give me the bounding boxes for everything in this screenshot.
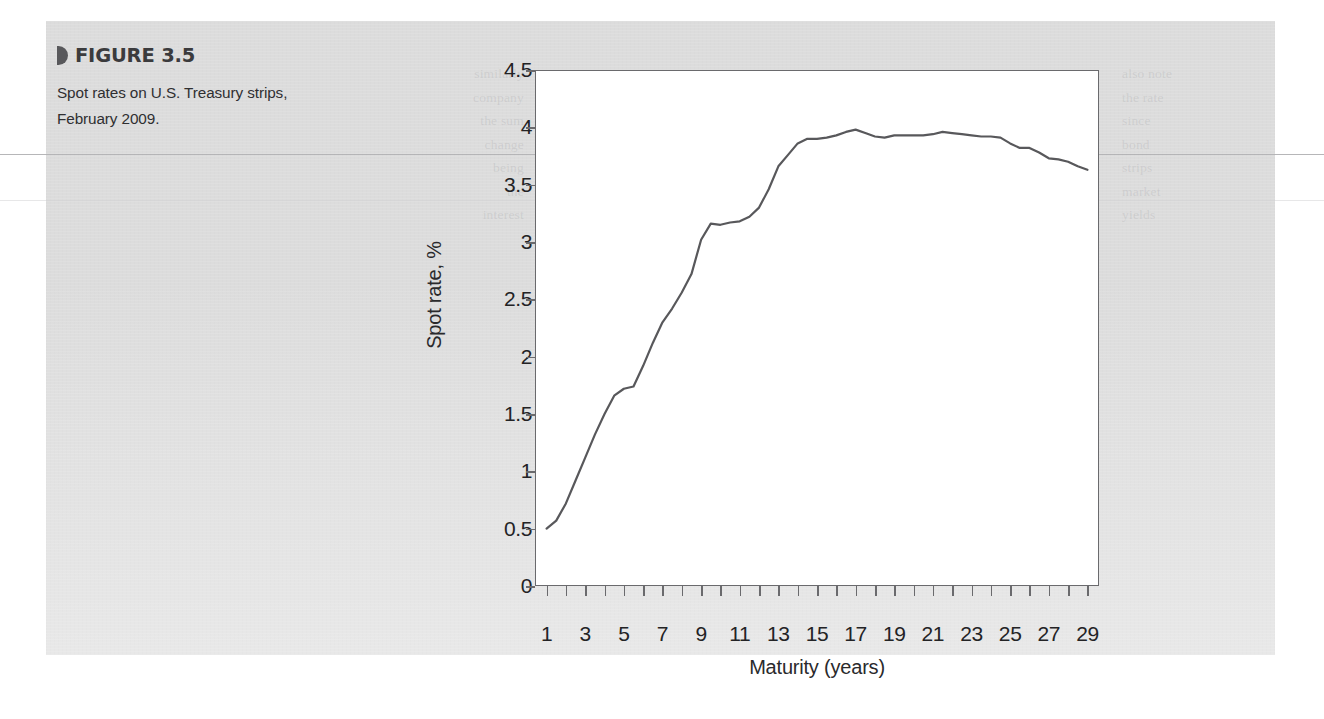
x-axis-tick-label: 5 <box>604 622 644 646</box>
y-axis-title: Spot rate, % <box>423 241 446 349</box>
x-axis-tick-label: 9 <box>681 622 721 646</box>
x-axis-tick-mark <box>914 586 916 596</box>
figure-page: similarly company the sum change being t… <box>0 0 1324 719</box>
x-axis-tick-mark <box>740 586 742 596</box>
x-axis-tick-mark <box>720 586 722 596</box>
x-axis-tick-label: 25 <box>990 622 1030 646</box>
x-axis-tick-label: 23 <box>952 622 992 646</box>
x-axis-tick-mark <box>894 586 896 596</box>
series-line-chart <box>535 70 1099 586</box>
x-axis-tick-mark <box>1049 586 1051 596</box>
x-axis-tick-label: 13 <box>758 622 798 646</box>
x-axis-tick-mark <box>778 586 780 596</box>
x-axis-tick-mark <box>547 586 549 596</box>
x-axis-tick-mark <box>701 586 703 596</box>
x-axis-tick-label: 3 <box>565 622 605 646</box>
y-axis-tick-mark <box>526 185 535 187</box>
x-axis-tick-mark <box>624 586 626 596</box>
x-axis-tick-mark <box>856 586 858 596</box>
x-axis-tick-label: 27 <box>1029 622 1069 646</box>
x-axis-tick-label: 15 <box>797 622 837 646</box>
y-axis-tick-label: 1.5 <box>474 402 532 426</box>
x-axis-tick-label: 11 <box>720 622 760 646</box>
plot-wrapper <box>535 70 1099 586</box>
series-line <box>547 130 1088 529</box>
x-axis-tick-mark <box>817 586 819 596</box>
y-axis-tick-labels: 00.511.522.533.544.5 <box>470 44 532 664</box>
x-axis-tick-label: 7 <box>642 622 682 646</box>
x-axis-tick-mark <box>798 586 800 596</box>
x-axis-title: Maturity (years) <box>535 656 1099 679</box>
x-axis-tick-label: 21 <box>913 622 953 646</box>
y-axis-tick-label: 2.5 <box>474 287 532 311</box>
y-axis-tick-mark <box>526 299 535 301</box>
y-axis-tick-label: 2 <box>474 345 532 369</box>
x-axis-tick-mark <box>991 586 993 596</box>
y-axis-tick-label: 4.5 <box>474 58 532 82</box>
x-axis-tick-label: 1 <box>527 622 567 646</box>
y-axis-tick-label: 0.5 <box>474 517 532 541</box>
x-axis-tick-mark <box>662 586 664 596</box>
figure-label: FIGURE 3.5 <box>75 44 195 67</box>
x-axis-tick-mark <box>836 586 838 596</box>
y-axis-tick-mark <box>526 242 535 244</box>
x-axis-tick-mark <box>605 586 607 596</box>
triangle-right-icon <box>57 46 68 65</box>
figure-heading: FIGURE 3.5 <box>57 44 307 67</box>
x-axis-tick-mark <box>1087 586 1089 596</box>
x-axis-tick-mark <box>875 586 877 596</box>
x-axis-tick-mark <box>1029 586 1031 596</box>
x-axis-tick-labels: 1357911131517192123252729 <box>535 622 1099 652</box>
figure-description: Spot rates on U.S. Treasury strips, Febr… <box>57 80 307 131</box>
x-axis-tick-mark <box>972 586 974 596</box>
y-axis-tick-mark <box>526 70 535 72</box>
x-axis-tick-mark <box>566 586 568 596</box>
y-axis-tick-mark <box>526 357 535 359</box>
y-axis-tick-mark <box>526 529 535 531</box>
x-axis-tick-mark <box>952 586 954 596</box>
y-axis-tick-label: 3 <box>474 230 532 254</box>
x-axis-tick-mark <box>933 586 935 596</box>
y-axis-tick-label: 1 <box>474 459 532 483</box>
y-axis-tick-label: 3.5 <box>474 173 532 197</box>
y-axis-tick-mark <box>526 471 535 473</box>
y-axis-tick-mark <box>526 414 535 416</box>
figure-caption: FIGURE 3.5 Spot rates on U.S. Treasury s… <box>57 44 307 131</box>
x-axis-tick-mark <box>682 586 684 596</box>
x-axis-tick-label: 29 <box>1067 622 1107 646</box>
x-axis-tick-mark <box>1010 586 1012 596</box>
x-axis-tick-mark <box>643 586 645 596</box>
x-axis-tick-mark <box>759 586 761 596</box>
x-axis-tick-label: 19 <box>874 622 914 646</box>
x-axis-tick-mark <box>585 586 587 596</box>
y-axis-tick-label: 4 <box>474 115 532 139</box>
y-axis-tick-label: 0 <box>474 574 532 598</box>
spot-rate-chart: Spot rate, % 00.511.522.533.544.5 135791… <box>430 44 1150 664</box>
x-axis-tick-label: 17 <box>836 622 876 646</box>
y-axis-tick-mark <box>526 586 535 588</box>
x-axis-tick-mark <box>1068 586 1070 596</box>
y-axis-tick-mark <box>526 127 535 129</box>
